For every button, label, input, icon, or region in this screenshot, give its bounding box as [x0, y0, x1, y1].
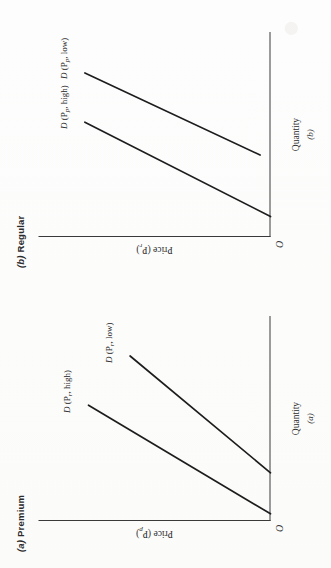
curve-label-d: D [58, 123, 68, 130]
x-axis-subtitle-premium: (a) [304, 316, 314, 521]
panel-title-regular: (b) Regular [14, 216, 25, 268]
y-axis-title-text: Price (P [142, 245, 172, 255]
rotated-figure-regular: (b) Regular O Price (Pr) Quantity (b) [0, 0, 331, 284]
curve-label-subscript: p [63, 59, 71, 63]
origin-label-premium: O [273, 525, 284, 532]
demand-curve-high-regular [84, 122, 270, 216]
rotated-figure-premium: (a) Premium O Price (Pp) Quantity (a) [0, 284, 331, 568]
curve-label-low-regular: D (Pp, low) [58, 38, 71, 79]
curve-label-open: (P [58, 112, 68, 122]
y-axis-subscript: p [139, 526, 143, 534]
panel-title-premium: (a) Premium [14, 495, 25, 552]
demand-curve-high-premium [88, 405, 270, 514]
demand-curve-low-regular [84, 73, 259, 155]
x-axis-title-premium: Quantity [290, 316, 300, 521]
curve-label-high-regular: D (Pp, high) [58, 85, 71, 129]
panel-slot-premium: (a) Premium O Price (Pp) Quantity (a) [0, 284, 331, 568]
demand-curves-regular [38, 32, 270, 237]
demand-curves-premium [38, 316, 270, 521]
curve-label-open: (P [58, 62, 68, 72]
x-axis-subtitle-regular: (b) [304, 32, 314, 237]
curve-label-subscript: p [63, 109, 71, 113]
panel-name-regular: Regular [14, 216, 25, 253]
curve-label-low-premium: D (Pr, low) [103, 323, 116, 364]
curve-label-rest: , high) [61, 370, 71, 394]
panel-slot-regular: (b) Regular O Price (Pr) Quantity (b) [0, 0, 331, 284]
panel-label-b: (b) [14, 255, 25, 268]
y-axis-title-regular: Price (Pr) [136, 242, 172, 255]
curve-label-open: (P [103, 346, 113, 356]
plot-area-regular: O Price (Pr) Quantity (b) D (Pp, high) [38, 32, 270, 237]
curve-label-d: D [103, 357, 113, 364]
curve-label-high-premium: D (Pr, high) [61, 370, 74, 413]
panel-label-a: (a) [14, 540, 25, 552]
curve-label-open: (P [61, 396, 71, 406]
panel-name-premium: Premium [14, 495, 25, 537]
demand-curve-low-premium [130, 356, 270, 473]
curve-label-subscript: r [108, 344, 116, 347]
curve-label-rest: , high) [58, 85, 68, 109]
y-axis-title-close: ) [136, 245, 139, 255]
curve-label-rest: , low) [58, 38, 68, 59]
curve-label-d: D [58, 73, 68, 80]
y-axis-title-text: Price (P [142, 529, 172, 539]
origin-label-regular: O [273, 241, 284, 248]
y-axis-title-close: ) [135, 529, 138, 539]
y-axis-title-premium: Price (Pp) [135, 526, 172, 539]
curve-label-d: D [61, 407, 71, 414]
panel-premium: (a) Premium O Price (Pp) Quantity (a) [0, 284, 331, 568]
scanned-page: (b) Regular O Price (Pr) Quantity (b) [0, 0, 331, 568]
panel-regular: (b) Regular O Price (Pr) Quantity (b) [0, 0, 331, 284]
x-axis-title-regular: Quantity [290, 32, 300, 237]
curve-label-subscript: r [66, 394, 74, 397]
curve-label-rest: , low) [103, 323, 113, 344]
plot-area-premium: O Price (Pp) Quantity (a) D (Pr, high) [38, 316, 270, 521]
